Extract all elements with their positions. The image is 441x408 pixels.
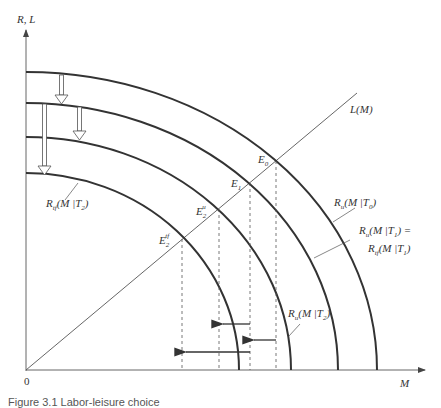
y-axis-label: R, L [16,13,35,25]
e2tf-label: E2tf [158,232,170,249]
ru-t0-label: Ru(M |T0) [333,196,376,211]
figure-caption: Figure 3.1 Labor-leisure choice [8,396,160,408]
l-m-label: L(M) [349,103,373,116]
origin-label: 0 [24,375,30,387]
leader-ru-t2 [289,324,300,336]
hollow-arrow-t1-t2 [73,107,86,140]
ru-t2-label: Ru(M |T2) [287,307,330,322]
curve-ru-t2 [26,137,291,370]
hollow-arrow-t1-tf2 [38,104,51,175]
e2u-label: E2u [195,203,207,220]
hollow-arrow-t0-t1 [55,75,68,104]
e0-label: E0 [257,153,269,168]
ru-t1-label-line1: Ru(M |T1) = [358,224,411,239]
rtf-t2-label: Rtf(M |T2) [45,197,89,212]
ru-t1-label-line2: Rtf(M |T1) [367,242,411,257]
e1-label: E1 [230,177,241,192]
leader-ru-t1 [314,240,350,258]
x-axis-label: M [399,377,410,389]
